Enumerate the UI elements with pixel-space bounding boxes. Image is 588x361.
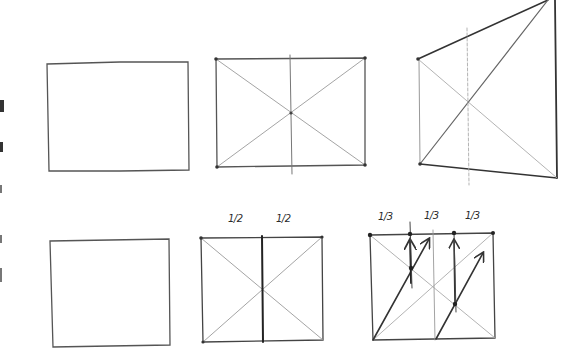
label-third-2: 1/3 [424, 210, 439, 221]
frame-plain-rectangle-top [47, 62, 189, 171]
cropped-mark [0, 235, 2, 243]
frame-rectangle-diagonals [214, 55, 367, 174]
label-half-left: 1/2 [228, 213, 243, 224]
frame-perspective-rectangle [416, 0, 557, 185]
frame-halves [199, 235, 323, 343]
label-third-1: 1/3 [378, 211, 393, 222]
frame-plain-rectangle-bottom [50, 239, 170, 347]
sketch-canvas [0, 0, 588, 361]
label-third-3: 1/3 [465, 210, 480, 221]
label-half-right: 1/2 [276, 213, 291, 224]
cropped-mark [0, 142, 3, 152]
cropped-mark [0, 185, 2, 193]
cropped-mark [0, 268, 2, 282]
cropped-mark [0, 100, 4, 112]
frame-thirds [368, 222, 495, 340]
